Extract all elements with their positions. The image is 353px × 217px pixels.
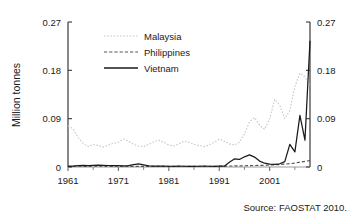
x-tick-label: 1991	[209, 175, 230, 186]
x-tick-label: 1981	[158, 175, 179, 186]
y-tick-label-right: 0.27	[317, 17, 336, 28]
y-tick-label-right: 0.09	[317, 113, 336, 124]
x-tick-label: 1971	[108, 175, 129, 186]
legend-label-vietnam: Vietnam	[144, 63, 179, 74]
y-tick-label-left: 0.09	[43, 113, 62, 124]
x-tick-label: 1961	[57, 175, 78, 186]
chart-axes	[68, 22, 310, 167]
chart-series-group	[68, 41, 310, 167]
y-axis-title: Million tonnes	[10, 63, 22, 127]
y-tick-label-left: 0.18	[43, 65, 62, 76]
y-tick-label-left: 0	[56, 162, 61, 173]
y-tick-label-left: 0.27	[43, 17, 62, 28]
legend-label-philippines: Philippines	[144, 47, 190, 58]
x-tick-label: 2001	[259, 175, 280, 186]
y-axis-left-tick-labels: 00.090.180.27	[43, 17, 62, 173]
x-axis-tick-labels: 19611971198119912001	[57, 175, 280, 186]
legend-label-malaysia: Malaysia	[144, 31, 182, 42]
chart-legend: MalaysiaPhilippinesVietnam	[104, 31, 190, 74]
source-note: Source: FAOSTAT 2010.	[244, 202, 348, 213]
chart-figure: 00.090.180.27 00.090.180.27 196119711981…	[0, 0, 353, 217]
x-axis-ticks	[68, 167, 295, 171]
y-tick-label-right: 0	[317, 162, 322, 173]
y-axis-right-tick-labels: 00.090.180.27	[317, 17, 336, 173]
series-line-malaysia	[68, 73, 310, 147]
y-tick-label-right: 0.18	[317, 65, 336, 76]
line-chart-canvas: 00.090.180.27 00.090.180.27 196119711981…	[0, 0, 353, 217]
